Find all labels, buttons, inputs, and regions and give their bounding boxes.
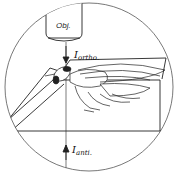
ortho-subscript: ortho. (78, 54, 99, 62)
anti-subscript: anti. (76, 149, 92, 157)
objective-label: Obj. (56, 21, 71, 30)
diagram-canvas: Obj. Iortho. Ianti. (0, 0, 179, 174)
